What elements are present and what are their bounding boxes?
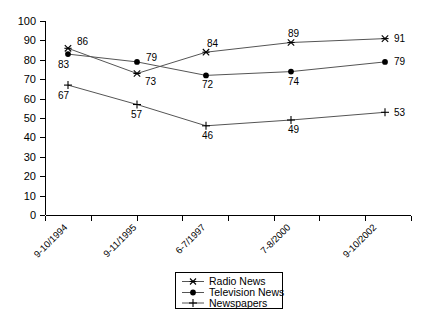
y-tick-label: 100 bbox=[18, 15, 36, 27]
y-tick-label: 20 bbox=[24, 170, 36, 182]
filled-circle-icon bbox=[190, 290, 196, 296]
chart-legend: Radio News Television News Newspapers bbox=[176, 273, 285, 309]
y-tick-label: 40 bbox=[24, 131, 36, 143]
y-tick-label: 30 bbox=[24, 151, 36, 163]
point-label: 46 bbox=[202, 130, 214, 141]
line-chart: 100 90 80 70 60 50 40 30 20 10 0 bbox=[0, 0, 435, 330]
point-label: 73 bbox=[145, 76, 157, 87]
point-label: 72 bbox=[202, 79, 214, 90]
point-label: 74 bbox=[288, 76, 300, 87]
y-tick-label: 0 bbox=[30, 209, 36, 221]
y-tick-label: 90 bbox=[24, 34, 36, 46]
point-label: 84 bbox=[207, 38, 219, 49]
point-label: 49 bbox=[288, 124, 300, 135]
point-label: 79 bbox=[146, 52, 158, 63]
point-label: 53 bbox=[394, 107, 406, 118]
point-label: 67 bbox=[58, 90, 70, 101]
legend-label: Newspapers bbox=[209, 297, 267, 309]
point-label: 86 bbox=[77, 36, 89, 47]
y-tick-label: 70 bbox=[24, 73, 36, 85]
point-label: 83 bbox=[58, 59, 70, 70]
point-label: 79 bbox=[394, 56, 406, 67]
y-tick-label: 60 bbox=[24, 93, 36, 105]
y-tick-label: 10 bbox=[24, 190, 36, 202]
y-tick-label: 50 bbox=[24, 112, 36, 124]
point-label: 91 bbox=[394, 33, 406, 44]
point-label: 89 bbox=[288, 28, 300, 39]
point-label: 57 bbox=[131, 109, 143, 120]
y-tick-label: 80 bbox=[24, 54, 36, 66]
